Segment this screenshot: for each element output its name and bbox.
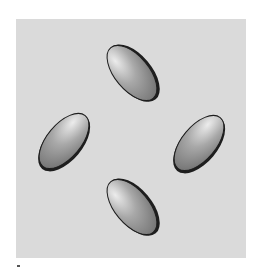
ellipse-bottom: [98, 169, 170, 245]
corner-mark: [17, 265, 20, 267]
ellipse-right: [163, 107, 235, 183]
ellipse-figure: [0, 0, 261, 269]
ellipse-left: [28, 105, 100, 181]
ellipse-top: [98, 35, 170, 111]
